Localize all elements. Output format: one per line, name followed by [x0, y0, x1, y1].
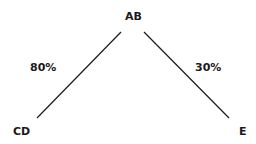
node-ab-label: AB — [125, 11, 142, 22]
edge-ab-cd — [37, 32, 121, 118]
edge-ab-cd-label: 80% — [30, 62, 56, 73]
node-e-label: E — [239, 126, 247, 137]
edge-ab-e-label: 30% — [195, 62, 221, 73]
node-cd-label: CD — [13, 126, 30, 137]
tree-diagram: AB 80% 30% CD E — [0, 0, 256, 144]
edge-ab-e — [144, 32, 229, 118]
